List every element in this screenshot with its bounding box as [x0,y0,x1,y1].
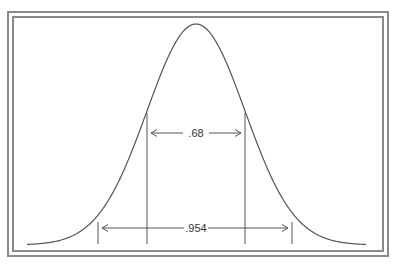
two-sigma-label: .954 [185,222,206,234]
one-sigma-label: .68 [188,127,203,139]
normal-curve-diagram: .68 .954 [0,0,395,265]
